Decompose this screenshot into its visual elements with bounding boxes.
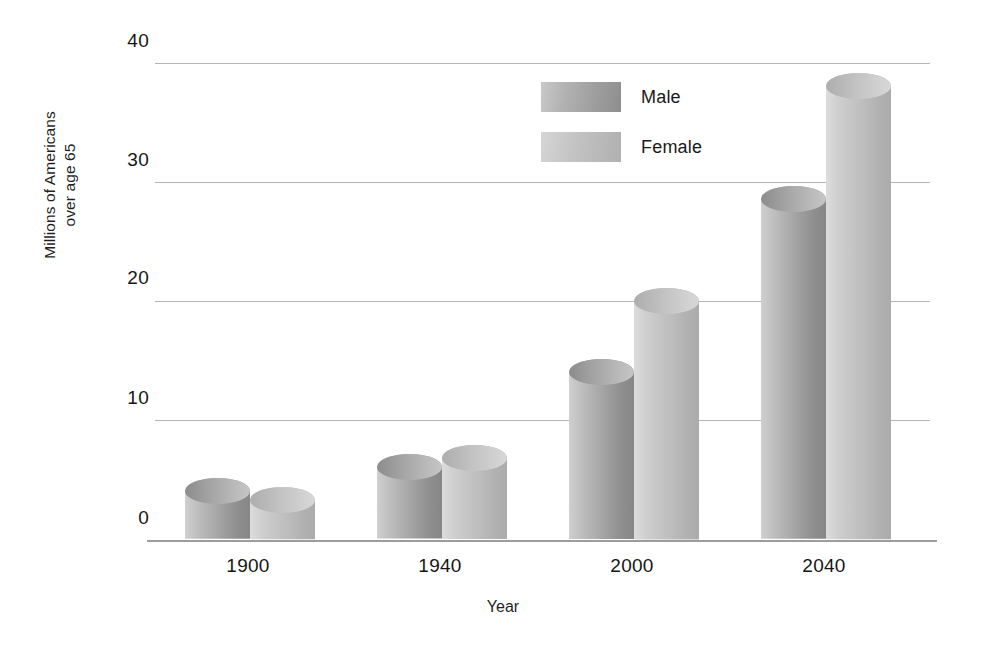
- bar-1900-male: [185, 477, 250, 540]
- y-axis-title-line1: Millions of Americans: [41, 111, 58, 259]
- bar-2000-female: [634, 287, 699, 541]
- bar-2040-female: [826, 72, 891, 540]
- bar-2000-male: [569, 358, 634, 540]
- x-tick-2040: 2040: [754, 555, 894, 577]
- y-axis-title: Millions of Americans over age 65: [40, 70, 100, 300]
- x-axis-title: Year: [0, 598, 1006, 616]
- y-tick-10: 10: [105, 387, 149, 409]
- y-axis-title-line2: over age 65: [60, 70, 80, 300]
- chart-legend: Male Female: [541, 78, 771, 178]
- y-tick-40: 40: [105, 30, 149, 52]
- x-axis-baseline: [147, 540, 937, 542]
- gridline-30: [155, 182, 930, 183]
- y-tick-0: 0: [105, 507, 149, 529]
- legend-label-female: Female: [641, 137, 702, 158]
- gridline-40: [155, 63, 930, 64]
- x-tick-1940: 1940: [370, 555, 510, 577]
- legend-item-male: Male: [541, 78, 771, 116]
- bar-1940-male: [377, 453, 442, 540]
- y-tick-30: 30: [105, 149, 149, 171]
- bar-2040-male: [761, 185, 826, 540]
- legend-label-male: Male: [641, 87, 681, 108]
- legend-swatch-male-icon: [541, 82, 621, 112]
- bar-1940-female: [442, 444, 507, 540]
- x-tick-2000: 2000: [562, 555, 702, 577]
- legend-swatch-female-icon: [541, 132, 621, 162]
- x-tick-1900: 1900: [178, 555, 318, 577]
- chart-figure: Millions of Americans over age 65 40 30 …: [0, 0, 1006, 651]
- y-tick-20: 20: [105, 267, 149, 289]
- bar-1900-female: [250, 486, 315, 540]
- legend-item-female: Female: [541, 128, 771, 166]
